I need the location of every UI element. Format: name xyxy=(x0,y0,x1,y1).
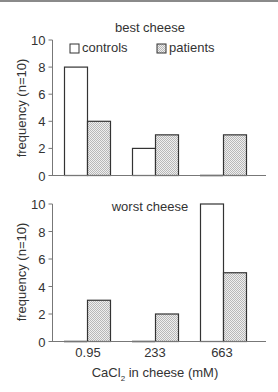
y-tick-label: 10 xyxy=(31,33,45,48)
top-panel-title: best cheese xyxy=(115,20,185,35)
bottom-bars xyxy=(64,204,247,342)
legend-patients-label: patients xyxy=(169,40,215,55)
y-tick-label: 10 xyxy=(31,197,45,212)
y-tick-label: 2 xyxy=(38,307,45,322)
legend-controls-swatch xyxy=(70,44,79,53)
y-tick-label: 6 xyxy=(38,252,45,267)
x-axis-title: CaCl2 in cheese (mM) xyxy=(92,365,219,383)
bar-patients-663 xyxy=(224,135,247,176)
bar-controls-663 xyxy=(201,204,224,342)
y-tick-label: 8 xyxy=(38,225,45,240)
y-tick-label: 4 xyxy=(38,114,45,129)
top-y-axis-label: frequency (n=10) xyxy=(14,59,29,158)
bottom-panel-title: worst cheese xyxy=(111,199,189,214)
top-bars xyxy=(65,67,247,175)
x-tick-label: 663 xyxy=(211,345,233,360)
x-tick-label: 233 xyxy=(144,345,166,360)
bottom-panel: worst cheese frequency (n=10) 0246810 0.… xyxy=(14,197,266,383)
top-panel: best cheese controls patients frequency … xyxy=(14,20,266,184)
x-tick-label: 0.95 xyxy=(75,345,100,360)
bar-controls-0.95 xyxy=(65,67,88,175)
y-tick-label: 0 xyxy=(38,169,45,184)
bar-patients-0.95 xyxy=(88,121,111,175)
chart-figure: best cheese controls patients frequency … xyxy=(0,0,278,392)
x-tick-labels: 0.95233663 xyxy=(75,345,233,360)
y-tick-label: 4 xyxy=(38,280,45,295)
y-tick-label: 6 xyxy=(38,87,45,102)
bar-patients-233 xyxy=(156,135,179,176)
bar-patients-0.95 xyxy=(88,300,111,341)
bar-patients-663 xyxy=(224,273,247,342)
legend: controls patients xyxy=(70,40,215,55)
bottom-y-axis: 0246810 xyxy=(31,197,52,350)
y-tick-label: 8 xyxy=(38,60,45,75)
legend-controls-label: controls xyxy=(82,40,128,55)
bottom-y-axis-label: frequency (n=10) xyxy=(14,223,29,322)
bar-controls-233 xyxy=(133,148,156,175)
top-y-axis: 0246810 xyxy=(31,33,52,184)
bar-patients-233 xyxy=(156,314,179,342)
y-tick-label: 2 xyxy=(38,141,45,156)
y-tick-label: 0 xyxy=(38,335,45,350)
legend-patients-swatch xyxy=(157,44,166,53)
